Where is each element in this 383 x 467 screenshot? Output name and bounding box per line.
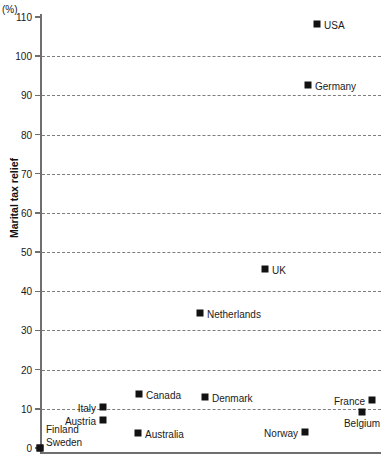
y-tick-mark <box>35 55 41 56</box>
y-tick-mark <box>35 251 41 252</box>
y-tick-label: 40 <box>2 286 32 297</box>
gridline <box>42 174 381 175</box>
data-point-marker[interactable] <box>314 21 321 28</box>
gridline <box>42 213 381 214</box>
y-tick-label: 20 <box>2 364 32 375</box>
data-point-label: USA <box>324 20 345 31</box>
y-tick-mark <box>35 212 41 213</box>
y-tick-mark <box>35 95 41 96</box>
y-tick-mark <box>35 16 41 17</box>
gridline <box>42 252 381 253</box>
y-tick-label: 30 <box>2 325 32 336</box>
y-axis-line <box>40 14 42 452</box>
gridline <box>42 56 381 57</box>
data-point-label: Italy <box>78 403 96 414</box>
data-point-marker[interactable] <box>37 445 44 452</box>
y-tick-label: 90 <box>2 90 32 101</box>
data-point-marker[interactable] <box>136 391 143 398</box>
gridline <box>42 370 381 371</box>
data-point-marker[interactable] <box>369 397 376 404</box>
data-point-label: Germany <box>315 81 356 92</box>
y-tick-label: 60 <box>2 207 32 218</box>
data-point-marker[interactable] <box>100 404 107 411</box>
y-tick-mark <box>35 408 41 409</box>
y-tick-mark <box>35 369 41 370</box>
y-tick-mark <box>35 291 41 292</box>
data-point-label: Netherlands <box>207 309 261 320</box>
data-point-marker[interactable] <box>359 409 366 416</box>
y-tick-label: 100 <box>2 51 32 62</box>
scatter-chart: (%) Marital tax relief 01020304050607080… <box>0 0 383 467</box>
gridline <box>42 330 381 331</box>
data-point-label: Sweden <box>46 437 82 448</box>
y-tick-mark <box>35 330 41 331</box>
y-tick-label: 80 <box>2 129 32 140</box>
data-point-marker[interactable] <box>302 429 309 436</box>
gridline <box>42 135 381 136</box>
data-point-marker[interactable] <box>135 430 142 437</box>
x-axis-line <box>40 452 381 454</box>
data-point-marker[interactable] <box>202 394 209 401</box>
data-point-label: Denmark <box>212 393 253 404</box>
data-point-marker[interactable] <box>262 266 269 273</box>
data-point-label: France <box>334 396 365 407</box>
data-point-marker[interactable] <box>100 417 107 424</box>
y-tick-label: 0 <box>2 443 32 454</box>
y-tick-label: 70 <box>2 168 32 179</box>
y-tick-label: 10 <box>2 403 32 414</box>
data-point-label: UK <box>272 265 286 276</box>
y-tick-label: 50 <box>2 247 32 258</box>
y-tick-mark <box>35 134 41 135</box>
data-point-label: Belgium <box>344 418 380 429</box>
gridline <box>42 95 381 96</box>
data-point-label: Australia <box>145 429 184 440</box>
data-point-label: Canada <box>146 390 181 401</box>
data-point-marker[interactable] <box>197 310 204 317</box>
data-point-marker[interactable] <box>305 82 312 89</box>
y-tick-mark <box>35 173 41 174</box>
data-point-label: Norway <box>264 428 298 439</box>
data-point-label: Austria <box>65 416 96 427</box>
y-tick-label: 110 <box>2 12 32 23</box>
gridline <box>42 291 381 292</box>
